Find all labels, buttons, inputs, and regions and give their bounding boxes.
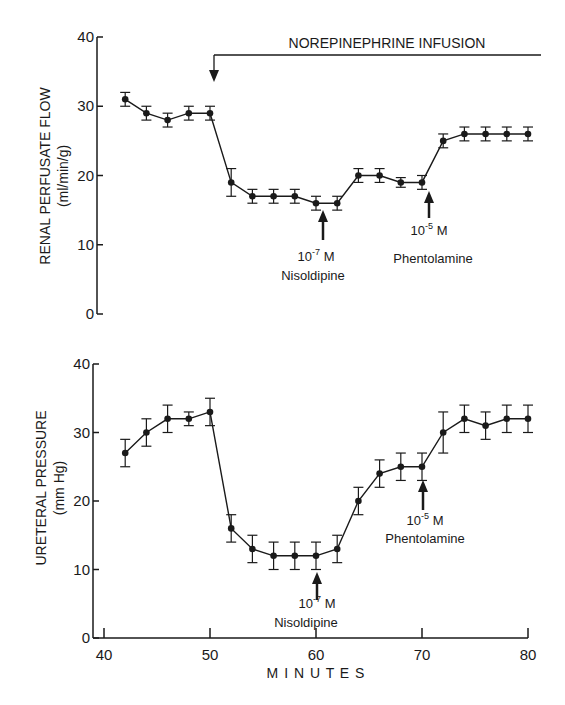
data-point <box>228 179 235 186</box>
data-point <box>270 553 277 560</box>
y-tick-label: 40 <box>77 28 94 45</box>
top-series <box>120 92 533 210</box>
top-phentolamine-label: Phentolamine <box>393 251 473 266</box>
top-y-ticks: 010203040 <box>77 28 103 322</box>
data-point <box>461 416 468 423</box>
data-point <box>398 179 405 186</box>
bottom-phentolamine-annotation: 10-5 M Phentolamine <box>385 480 465 546</box>
bottom-y-ticks: 010203040 <box>73 355 99 646</box>
y-tick-label: 0 <box>82 629 90 646</box>
data-point <box>143 110 150 117</box>
data-point <box>270 193 277 200</box>
figure: 010203040 RENAL PERFUSATE FLOW (ml/min/g… <box>0 0 565 705</box>
data-point <box>440 138 447 145</box>
data-point <box>249 546 256 553</box>
y-tick-label: 0 <box>86 305 94 322</box>
data-point <box>207 409 214 416</box>
x-tick-label: 40 <box>96 646 113 663</box>
bottom-phentolamine-label: Phentolamine <box>385 531 465 546</box>
y-tick-label: 40 <box>73 355 90 372</box>
data-point <box>419 463 426 470</box>
data-point <box>292 193 299 200</box>
y-tick-label: 30 <box>77 97 94 114</box>
data-point <box>461 131 468 138</box>
data-point <box>482 131 489 138</box>
data-point <box>313 553 320 560</box>
data-point <box>355 172 362 179</box>
bottom-series <box>120 398 533 569</box>
data-point <box>482 422 489 429</box>
data-point <box>122 450 129 457</box>
top-y-label: RENAL PERFUSATE FLOW <box>37 87 53 265</box>
data-point <box>419 179 426 186</box>
data-point <box>186 416 193 423</box>
bottom-nisoldipine-annotation: 10-7 M Nisoldipine <box>274 572 338 630</box>
top-y-units: (ml/min/g) <box>55 145 71 207</box>
data-point <box>355 498 362 505</box>
svg-text:10-7 M: 10-7 M <box>298 247 335 264</box>
data-point <box>313 200 320 207</box>
data-point <box>164 117 171 124</box>
data-point <box>376 470 383 477</box>
x-axis-label: M I N U T E S <box>267 665 366 681</box>
data-point <box>376 172 383 179</box>
series-line <box>125 99 528 203</box>
bottom-panel: 010203040 4050607080 URETERAL PRESSURE (… <box>33 355 536 681</box>
arrow-up-icon <box>424 191 434 203</box>
x-tick-label: 80 <box>520 646 537 663</box>
top-nisoldipine-label: Nisoldipine <box>281 268 345 283</box>
data-point <box>525 131 532 138</box>
arrow-up-icon <box>318 210 328 222</box>
data-point <box>164 416 171 423</box>
data-point <box>292 553 299 560</box>
top-nisoldipine-annotation: 10-7 M Nisoldipine <box>281 210 345 283</box>
y-tick-label: 20 <box>73 492 90 509</box>
y-tick-label: 20 <box>77 167 94 184</box>
arrow-up-icon <box>312 572 322 584</box>
data-point <box>186 110 193 117</box>
svg-text:10-7 M: 10-7 M <box>299 594 336 611</box>
infusion-label: NOREPINEPHRINE INFUSION <box>289 35 486 51</box>
bottom-y-units: (mm Hg) <box>51 461 67 515</box>
data-point <box>228 525 235 532</box>
data-point <box>398 463 405 470</box>
data-point <box>334 200 341 207</box>
data-point <box>504 416 511 423</box>
top-phentolamine-annotation: 10-5 M Phentolamine <box>393 191 473 266</box>
series-line <box>125 412 528 556</box>
svg-text:10-5 M: 10-5 M <box>407 511 444 528</box>
svg-text:10-5 M: 10-5 M <box>411 221 448 238</box>
data-point <box>249 193 256 200</box>
bottom-y-label: URETERAL PRESSURE <box>33 410 49 565</box>
infusion-bracket: NOREPINEPHRINE INFUSION <box>209 35 541 82</box>
y-tick-label: 10 <box>73 561 90 578</box>
bottom-nisoldipine-label: Nisoldipine <box>274 615 338 630</box>
x-tick-label: 70 <box>414 646 431 663</box>
arrow-up-icon <box>418 480 428 492</box>
arrow-down-icon <box>209 70 219 82</box>
data-point <box>440 429 447 436</box>
data-point <box>207 110 214 117</box>
data-point <box>334 546 341 553</box>
x-tick-label: 50 <box>202 646 219 663</box>
top-panel: 010203040 RENAL PERFUSATE FLOW (ml/min/g… <box>37 28 541 322</box>
data-point <box>504 131 511 138</box>
data-point <box>143 429 150 436</box>
data-point <box>122 96 129 103</box>
x-ticks: 4050607080 <box>96 628 537 663</box>
x-tick-label: 60 <box>308 646 325 663</box>
y-tick-label: 30 <box>73 424 90 441</box>
data-point <box>525 416 532 423</box>
y-tick-label: 10 <box>77 236 94 253</box>
